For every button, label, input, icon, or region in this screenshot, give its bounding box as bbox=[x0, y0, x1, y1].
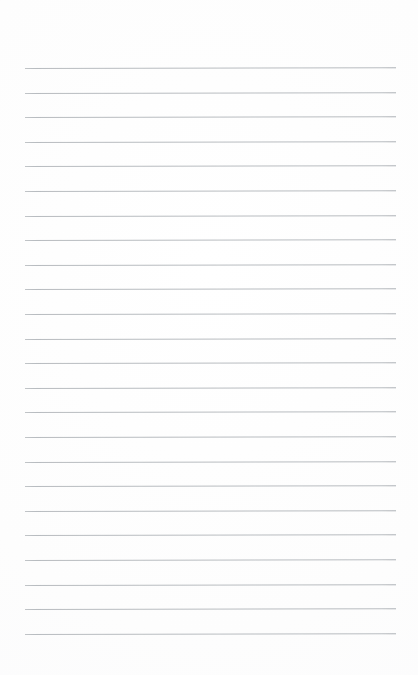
notebook-page bbox=[0, 0, 418, 675]
writing-area[interactable] bbox=[25, 60, 396, 642]
